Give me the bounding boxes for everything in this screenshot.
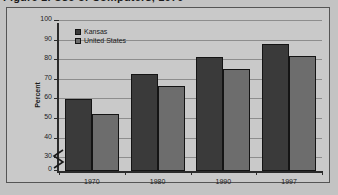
chart-legend: KansasUnited States	[75, 28, 126, 44]
x-axis-tick	[256, 171, 257, 175]
bar[interactable]	[262, 44, 289, 171]
figure-title-strip: Figure 1. Use of Computers, 1970	[0, 0, 338, 6]
legend-swatch	[75, 38, 81, 44]
x-axis-tick	[191, 171, 192, 175]
bar-group	[59, 23, 125, 171]
bar-group	[256, 23, 322, 171]
x-axis-tick	[125, 171, 126, 175]
chart-frame: Percent 030405060708090100 1970198019901…	[6, 7, 330, 183]
x-axis-tick-label: 1980	[150, 178, 166, 185]
bar[interactable]	[65, 99, 92, 171]
bar-group	[191, 23, 257, 171]
plot-area: 030405060708090100 1970198019901997 Kans…	[57, 23, 322, 173]
x-axis-tick	[322, 171, 323, 175]
bar[interactable]	[289, 56, 316, 171]
y-axis-tick	[54, 20, 59, 21]
y-axis-tick-label: 50	[44, 113, 52, 120]
y-axis-tick-label: 100	[40, 15, 52, 22]
bar-groups	[59, 23, 322, 171]
bar[interactable]	[223, 69, 250, 171]
legend-swatch	[75, 29, 81, 35]
bar[interactable]	[131, 74, 158, 171]
chart-figure: Figure 1. Use of Computers, 1970 Percent…	[0, 0, 338, 195]
x-axis-tick-label: 1997	[281, 178, 297, 185]
x-axis-tick	[59, 171, 60, 175]
y-axis-title: Percent	[34, 82, 41, 108]
legend-item[interactable]: United States	[75, 37, 126, 44]
bar[interactable]	[158, 86, 185, 171]
figure-title: Figure 1. Use of Computers, 1970	[3, 0, 184, 3]
y-axis-tick-label: 30	[44, 152, 52, 159]
y-axis-tick-label: 80	[44, 54, 52, 61]
bar[interactable]	[92, 114, 119, 171]
legend-label: Kansas	[84, 28, 107, 35]
y-axis-tick-label: 70	[44, 73, 52, 80]
x-axis-tick-label: 1990	[216, 178, 232, 185]
bar[interactable]	[196, 57, 223, 171]
legend-item[interactable]: Kansas	[75, 28, 126, 35]
x-axis-tick-label: 1970	[84, 178, 100, 185]
gridline	[59, 20, 322, 21]
legend-label: United States	[84, 37, 126, 44]
y-axis-tick-label: 40	[44, 132, 52, 139]
y-axis-tick-label: 90	[44, 34, 52, 41]
bar-group	[125, 23, 191, 171]
y-axis-tick-label: 60	[44, 93, 52, 100]
